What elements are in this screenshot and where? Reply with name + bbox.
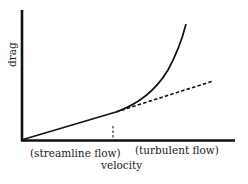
turbulent-flow-label: (turbulent flow)	[135, 144, 219, 156]
extrapolated-linear-dashed	[116, 81, 213, 112]
streamline-flow-label: (streamline flow)	[30, 147, 121, 159]
streamline-linear-segment	[23, 112, 116, 140]
y-axis-label: drag	[6, 42, 18, 67]
drag-velocity-diagram: drag (streamline flow) (turbulent flow) …	[0, 0, 248, 184]
x-axis-label: velocity	[100, 159, 142, 171]
turbulent-curve	[116, 24, 186, 112]
